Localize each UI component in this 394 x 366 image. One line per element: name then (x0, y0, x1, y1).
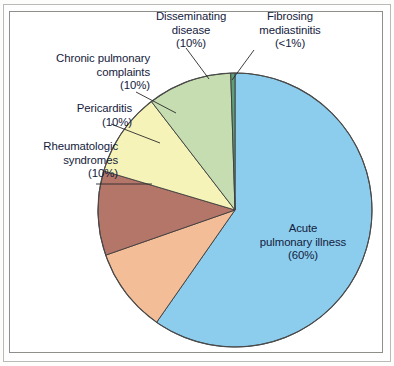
leader-line-disseminating (186, 48, 209, 79)
pie-slices-group (98, 73, 372, 347)
pie-chart-figure: Disseminating disease (10%) Fibrosing me… (0, 0, 394, 366)
slice-label-fibrosing-mediastinitis: Fibrosing mediastinitis (<1%) (242, 10, 338, 51)
slice-label-disseminating-disease: Disseminating disease (10%) (143, 10, 239, 51)
slice-label-rheumatologic-syndromes: Rheumatologic syndromes (10%) (6, 140, 118, 181)
slice-label-pericarditis: Pericarditis (10%) (20, 102, 132, 129)
slice-label-chronic-pulmonary-complaints: Chronic pulmonary complaints (10%) (38, 52, 150, 93)
slice-label-acute-pulmonary-illness: Acute pulmonary illness (60%) (250, 222, 356, 263)
